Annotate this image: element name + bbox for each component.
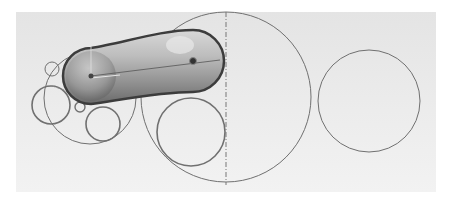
figure-container — [0, 0, 452, 201]
arm-pivot-right — [190, 58, 197, 65]
left-small-top-circle — [45, 62, 59, 76]
arm-pivot-left — [89, 74, 94, 79]
left-bottom-circle — [86, 107, 120, 141]
center-inner-circle — [157, 98, 225, 166]
mechanism-diagram — [0, 0, 452, 201]
left-mid-circle — [32, 86, 70, 124]
link-arm — [63, 30, 224, 104]
right-circle — [318, 50, 420, 152]
